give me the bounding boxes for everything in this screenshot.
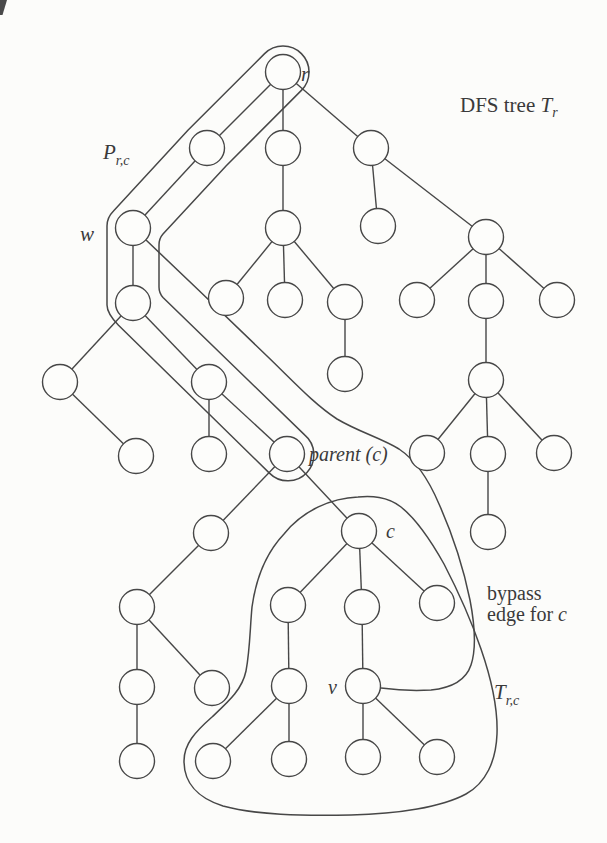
tree-node-l2 bbox=[119, 439, 154, 474]
w-label: w bbox=[80, 222, 94, 246]
c-label: c bbox=[386, 520, 395, 542]
dfs-tree-figure: r DFS tree Tr Pr,c w parent (c) c bypass… bbox=[0, 0, 607, 843]
tree-node-b1b bbox=[268, 283, 303, 318]
tree-node-m bbox=[345, 590, 380, 625]
bypass-label-line2-text: edge for bbox=[487, 603, 558, 626]
bypass-label-line1: bypass bbox=[487, 582, 542, 605]
tree-node-e3 bbox=[195, 671, 230, 706]
path-P-label-subscript: r,c bbox=[116, 153, 130, 168]
tree-node-c2a bbox=[400, 283, 435, 318]
tree-node-c2b1b1 bbox=[471, 515, 506, 550]
tree-node-c2b1 bbox=[469, 363, 504, 398]
tree-node-cc bbox=[354, 131, 389, 166]
dfs-tree-title: DFS tree Tr bbox=[460, 93, 558, 120]
tree-node-d1 bbox=[194, 516, 229, 551]
tree-node-c1 bbox=[361, 209, 396, 244]
tree-edges bbox=[60, 72, 557, 761]
tree-node-f2 bbox=[272, 669, 307, 704]
tree-node-pc bbox=[270, 437, 305, 472]
bypass-label-line2: edge for c bbox=[487, 603, 567, 626]
tree-node-p3 bbox=[192, 365, 227, 400]
tree-node-f1 bbox=[271, 588, 306, 623]
v-label: v bbox=[328, 676, 337, 698]
tree-node-b1 bbox=[266, 211, 301, 246]
tree-node-e2 bbox=[120, 670, 155, 705]
tree-node-c2b1b bbox=[471, 437, 506, 472]
subtree-T-label: Tr,c bbox=[494, 680, 520, 708]
parent-c-label: parent (c) bbox=[307, 443, 388, 466]
tree-node-v bbox=[346, 669, 381, 704]
figure-page: r DFS tree Tr Pr,c w parent (c) c bypass… bbox=[0, 0, 607, 843]
tree-node-c2b bbox=[469, 284, 504, 319]
dfs-tree-title-prefix: DFS tree bbox=[460, 93, 541, 117]
tree-node-c2 bbox=[469, 220, 504, 255]
tree-node-w bbox=[116, 211, 151, 246]
tree-node-g4 bbox=[420, 740, 455, 775]
tree-node-e1 bbox=[120, 590, 155, 625]
tree-node-w1 bbox=[116, 286, 151, 321]
root-label: r bbox=[301, 62, 310, 86]
tree-node-rc bbox=[420, 586, 455, 621]
tree-node-c2c bbox=[540, 283, 575, 318]
tree-node-g1 bbox=[196, 744, 231, 779]
bypass-label-line2-var: c bbox=[558, 603, 567, 625]
tree-node-a bbox=[190, 131, 225, 166]
tree-node-b1c bbox=[328, 285, 363, 320]
tree-node-b1a bbox=[209, 281, 244, 316]
tree-node-c bbox=[342, 514, 377, 549]
tree-node-l1 bbox=[43, 365, 78, 400]
path-P-label-main: P bbox=[102, 140, 116, 164]
tree-node-c2b1c bbox=[537, 436, 572, 471]
tree-node-c2b1a bbox=[410, 436, 445, 471]
dfs-tree-title-subscript: r bbox=[552, 105, 558, 120]
subtree-T-label-subscript: r,c bbox=[506, 693, 520, 708]
tree-node-b bbox=[266, 131, 301, 166]
tree-node-p3c bbox=[192, 437, 227, 472]
path-P-label: Pr,c bbox=[102, 140, 130, 168]
tree-node-b1c1 bbox=[328, 357, 363, 392]
tree-node-g2 bbox=[272, 742, 307, 777]
tree-node-g3 bbox=[346, 740, 381, 775]
region-outlines bbox=[107, 46, 497, 815]
tree-node-e4 bbox=[120, 744, 155, 779]
scan-artifact bbox=[0, 0, 7, 15]
tree-node-r bbox=[266, 55, 301, 90]
